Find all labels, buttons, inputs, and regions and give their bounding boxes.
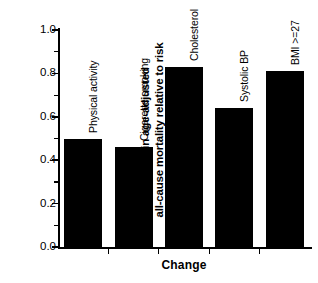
bar [266, 71, 304, 247]
y-axis-tick-mark [52, 159, 58, 161]
y-axis-minor-tick-mark [54, 95, 58, 96]
x-axis-tick-mark [209, 248, 210, 254]
bar [64, 139, 102, 248]
bar-category-label: Cholesterol [189, 9, 200, 61]
y-axis-minor-tick-mark [54, 51, 58, 52]
bar-category-label: Systolic BP [239, 50, 250, 102]
bar-category-label: Cigarette smoking [139, 58, 150, 141]
y-axis-tick-mark [52, 203, 58, 205]
x-axis-line [58, 247, 312, 249]
y-axis-line [58, 28, 60, 249]
y-axis-minor-tick-mark [54, 181, 58, 182]
y-axis-tick-mark [52, 73, 58, 75]
bar-chart-figure: Change in age-adjusted all-cause mortali… [0, 0, 318, 283]
y-axis-tick-mark [52, 116, 58, 118]
y-axis-minor-tick-mark [54, 138, 58, 139]
plot-area: Physical activityCigarette smokingCholes… [58, 30, 310, 247]
x-axis-tick-mark [108, 248, 109, 254]
x-axis-tick-mark [158, 248, 159, 254]
bar [215, 108, 253, 247]
bar [115, 147, 153, 247]
bar-category-label: BMI >=27 [290, 20, 301, 65]
bar-category-label: Physical activity [88, 60, 99, 132]
x-axis-tick-mark [259, 248, 260, 254]
bar [165, 67, 203, 247]
y-axis-tick-mark [52, 246, 58, 248]
y-axis-tick-mark [52, 29, 58, 31]
x-axis-title: Change [58, 258, 310, 272]
y-axis-tick-labels: 0.00.20.40.60.81.0 [10, 0, 56, 283]
y-axis-minor-tick-mark [54, 225, 58, 226]
